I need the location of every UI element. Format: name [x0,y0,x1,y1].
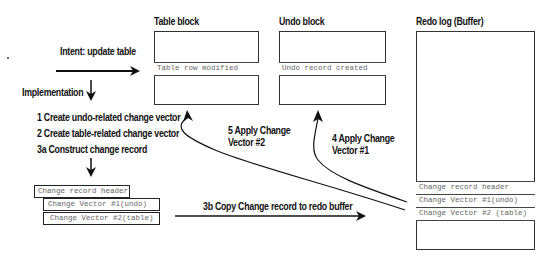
table-block-title: Table block [154,16,199,27]
redo-log-buffer: Change record header Change Vector #1(un… [416,31,535,250]
redo-change-vector-2: Change Vector #2 (table) [416,207,535,221]
step-2: 2 Create table-related change vector [37,128,179,139]
table-row-modified: Table row modified [154,62,259,76]
undo-record-created: Undo record created [279,62,386,76]
apply-cv1-label-line1: 4 Apply Change [332,133,394,144]
redo-log-title: Redo log (Buffer) [416,16,483,27]
intent-label: Intent: update table [60,46,136,57]
undo-block: Undo record created [279,31,386,105]
undo-block-title: Undo block [279,16,324,27]
change-vector-2: Change Vector #2(table) [43,212,160,225]
copy-label: 3b Copy Change record to redo buffer [203,201,352,212]
implementation-label: Implementation [22,87,83,98]
step-1: 1 Create undo-related change vector [37,112,180,123]
change-vector-1: Change Vector #1(undo) [43,198,160,211]
apply-cv2-curve [181,117,405,210]
apply-cv2-label-line1: 5 Apply Change [228,125,290,136]
apply-cv1-label-line2: Vector #1 [332,145,369,156]
apply-cv2-label-line2: Vector #2 [228,137,265,148]
table-block: Table row modified [154,31,259,105]
change-record-header: Change record header [34,185,130,198]
step-3a: 3a Construct change record [37,144,147,155]
redo-change-record-header: Change record header [416,181,535,195]
redo-change-vector-1: Change Vector #1(undo) [416,194,535,208]
apply-cv2-arrowhead [183,110,193,122]
apply-cv1-curve [314,118,407,202]
